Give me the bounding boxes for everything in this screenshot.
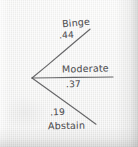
branch-value-binge: .44 [59, 29, 75, 40]
branch-lines-group [32, 29, 113, 124]
paper-sheet: Binge .44 Moderate .37 .19 Abstain [0, 0, 138, 147]
branch-value-moderate: .37 [66, 79, 81, 90]
branch-label-abstain: Abstain [48, 120, 85, 132]
branch-label-moderate: Moderate [62, 62, 109, 74]
abstain-branch-line [32, 78, 96, 124]
branch-value-abstain: .19 [50, 107, 65, 118]
moderate-branch-line [32, 77, 113, 78]
